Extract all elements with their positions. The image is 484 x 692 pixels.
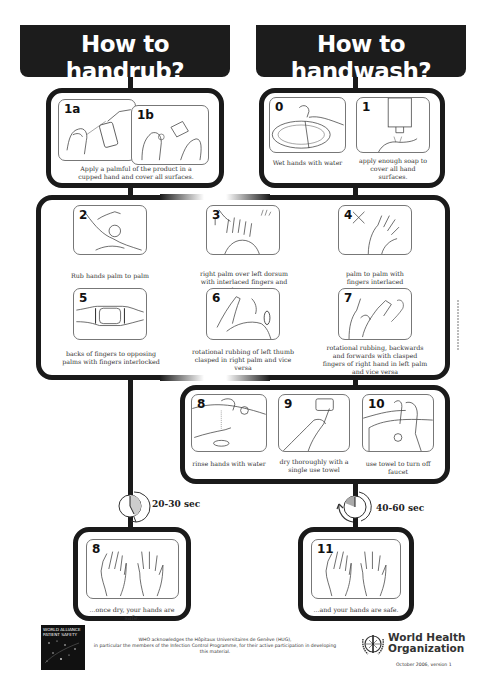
stopwatch-icon [112, 488, 152, 528]
step-number: 11 [317, 542, 334, 556]
step-number: 1 [362, 100, 370, 114]
who-name: World Health Organization [388, 632, 465, 654]
design-credit [457, 300, 459, 350]
step-panel-1: 1 [356, 97, 430, 153]
step-caption: palm to palm with fingers interlaced [335, 270, 415, 286]
step-panel-7: 7 [338, 288, 412, 340]
step-caption: backs of fingers to opposing palms with … [62, 350, 160, 366]
step-caption: rotational rubbing of left thumb clasped… [192, 348, 294, 372]
step-caption: Apply a palmful of the product in a cupp… [73, 165, 199, 181]
stars-decoration-icon [43, 637, 83, 665]
step-number: 0 [275, 100, 283, 114]
acknowledgement-text: WHO acknowledges the Hôpitaux Universita… [90, 637, 340, 655]
handwash-duration: 40-60 sec [376, 503, 424, 513]
step-caption: apply enough soap to cover all hand surf… [356, 157, 430, 181]
handwash-final-box: 11 ...and your hands are safe. [298, 527, 414, 621]
step-number: 7 [344, 291, 352, 305]
step-caption: use towel to turn off faucet [358, 460, 438, 476]
step-caption: ...once dry, your hands are safe. [82, 606, 182, 622]
step-number: 1a [64, 102, 80, 116]
step-number: 4 [344, 208, 352, 222]
who-emblem-icon [360, 631, 386, 657]
step-panel-final-handrub: 8 [86, 539, 179, 599]
step-number: 2 [79, 208, 87, 222]
step-panel-1b: 1b [131, 105, 209, 165]
step-number: 10 [368, 397, 385, 411]
step-caption: rotational rubbing, backwards and forwar… [322, 344, 428, 376]
step-panel-8: 8 [191, 394, 267, 452]
step-panel-2: 2 [73, 205, 147, 255]
step-panel-4: 4 [338, 205, 412, 255]
step-number: 6 [212, 291, 220, 305]
who-name-line2: Organization [388, 643, 465, 654]
handwash-start-box: 0 Wet hands with water 1 apply enough so… [259, 88, 445, 188]
step-caption: ...and your hands are safe. [307, 606, 405, 614]
acknowledgement-line2: in particular the members of the Infecti… [90, 643, 340, 655]
step-panel-5: 5 [73, 288, 147, 340]
step-panel-6: 6 [206, 288, 280, 340]
handrub-duration: 20-30 sec [152, 499, 200, 509]
step-number: 8 [197, 397, 205, 411]
world-alliance-patient-safety-logo: WORLD ALLIANCE PATIENT SAFETY [41, 625, 85, 670]
handwash-finish-box: 8 rinse hands with water 9 dry thoroughl… [180, 385, 450, 484]
step-caption: rinse hands with water [189, 460, 269, 468]
handrub-header: How to handrub? WITH ALCOHOL-BASED FORMU… [20, 25, 230, 77]
step-panel-9: 9 [278, 394, 350, 452]
step-caption: Rub hands palm to palm [60, 272, 160, 280]
handwash-title: How to handwash? [256, 31, 466, 85]
step-number: 5 [79, 291, 87, 305]
stopwatch-icon [333, 488, 373, 528]
who-logo [360, 631, 386, 657]
step-number: 9 [284, 397, 292, 411]
handwash-timer [333, 488, 373, 528]
handrub-final-box: 8 ...once dry, your hands are safe. [73, 527, 191, 621]
step-number: 3 [212, 208, 220, 222]
step-panel-10: 10 [362, 394, 434, 452]
version-text: October 2006, version 1 [396, 662, 456, 668]
handwash-header: How to handwash? WITH SOAP AND WATER [256, 25, 466, 77]
handrub-timer [112, 488, 152, 528]
handrub-start-box: 1a 1b Apply a palmful of the product in … [46, 88, 224, 188]
step-number: 1b [137, 108, 154, 122]
border-fade [160, 194, 270, 200]
step-panel-final-handwash: 11 [311, 539, 401, 599]
step-caption: Wet hands with water [269, 159, 346, 167]
handrub-title: How to handrub? [20, 31, 230, 85]
step-panel-3: 3 [206, 205, 280, 255]
step-caption: dry thoroughly with a single use towel [278, 458, 350, 474]
step-panel-1a: 1a [58, 99, 136, 161]
step-panel-0: 0 [269, 97, 346, 153]
border-fade [160, 375, 270, 381]
step-number: 8 [92, 542, 100, 556]
safe-hands-icon [87, 540, 178, 598]
